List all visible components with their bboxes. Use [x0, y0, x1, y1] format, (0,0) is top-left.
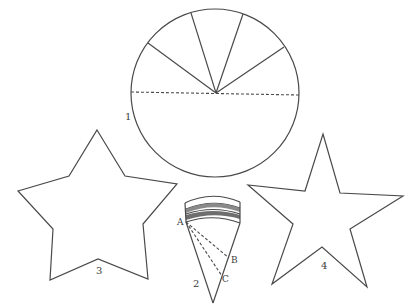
label-3: 3 [96, 265, 102, 276]
figure-2-cone: A B C 2 [176, 196, 240, 303]
cone-rim-base [186, 218, 240, 223]
cone-rim-left-edge [185, 203, 186, 222]
label-1: 1 [125, 111, 131, 122]
star-left-outline [18, 130, 177, 280]
sector-line-3 [216, 14, 243, 93]
sector-line-4 [216, 47, 284, 93]
sector-line-2 [191, 13, 216, 93]
label-c: C [222, 274, 229, 284]
label-2: 2 [193, 278, 199, 289]
diagram-svg: 1 3 4 A [0, 0, 417, 308]
label-a: A [176, 217, 184, 227]
dashed-line-a-c [186, 222, 222, 276]
label-4: 4 [321, 260, 327, 271]
cone-rim-band-mid-shade [186, 211, 240, 220]
diagram-stage: 1 3 4 A [0, 0, 417, 308]
figure-1-circle: 1 [125, 9, 299, 177]
label-b: B [231, 255, 238, 265]
cone-left-side [186, 222, 213, 303]
figure-3-star: 3 [18, 130, 177, 280]
cone-rim-band-top [185, 196, 240, 203]
sector-line-1 [148, 43, 216, 93]
figure-4-star: 4 [248, 134, 403, 287]
